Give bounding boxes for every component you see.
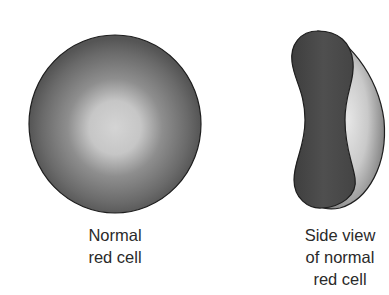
- caption-line: Normal: [65, 224, 165, 246]
- normal-red-cell-side-view: [292, 31, 385, 209]
- caption-line: red cell: [65, 246, 165, 268]
- caption-normal-red-cell: Normal red cell: [65, 224, 165, 268]
- normal-red-cell-front-view: [29, 35, 201, 213]
- caption-line: of normal: [290, 246, 389, 268]
- caption-line: Side view: [290, 224, 389, 246]
- caption-line: red cell: [290, 268, 389, 290]
- caption-side-view: Side view of normal red cell: [290, 224, 389, 290]
